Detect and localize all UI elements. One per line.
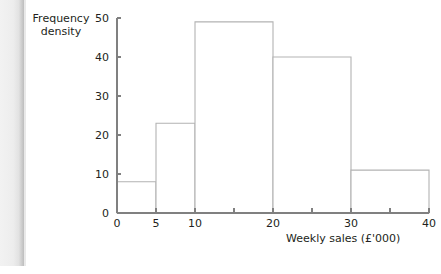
y-axis-title-line-2: density [24,25,98,38]
bars-group [117,22,429,213]
y-axis-title-line-1: Frequency [24,12,98,25]
y-axis-title: Frequency density [24,12,98,39]
x-tick-label: 0 [114,217,121,230]
x-tick-label: 40 [422,217,436,230]
y-tick-label: 10 [95,168,109,181]
y-tick-label: 20 [95,129,109,142]
y-tick-label: 0 [102,207,109,220]
x-tick-label: 10 [188,217,202,230]
y-tick-label: 40 [95,51,109,64]
histogram-bar [273,57,351,213]
x-axis-title: Weekly sales (£'000) [286,232,400,245]
y-tick-label: 30 [95,90,109,103]
histogram-bar [117,182,156,213]
x-tick-label: 20 [266,217,280,230]
histogram-bar [351,170,429,213]
histogram-bar [195,22,273,213]
histogram-figure: 010203040500510203040 Frequency density … [0,0,441,274]
x-tick-label: 30 [344,217,358,230]
histogram-bar [156,123,195,213]
x-tick-label: 5 [153,217,160,230]
